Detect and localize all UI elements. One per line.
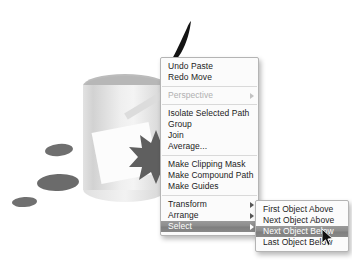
menu-item-label: Average... xyxy=(168,141,207,151)
object-context-menu[interactable]: Undo PasteRedo MovePerspectiveIsolate Se… xyxy=(160,57,259,236)
menu-item-group[interactable]: Group xyxy=(161,119,258,130)
menu-separator xyxy=(162,195,257,196)
screenshot-stage: Undo PasteRedo MovePerspectiveIsolate Se… xyxy=(0,0,352,262)
menu-item-label: First Object Above xyxy=(263,204,333,214)
menu-separator xyxy=(162,155,257,156)
menu-item-label: Group xyxy=(168,119,192,129)
splat-bottom[interactable] xyxy=(12,196,38,208)
menu-item-label: Perspective xyxy=(168,90,213,100)
splat-top[interactable] xyxy=(44,143,73,158)
menu-item-last-object-below[interactable]: Last Object Below xyxy=(256,237,348,248)
menu-item-label: Make Compound Path xyxy=(168,170,253,180)
menu-item-join[interactable]: Join xyxy=(161,130,258,141)
menu-item-label: Make Guides xyxy=(168,181,219,191)
menu-separator xyxy=(162,86,257,87)
menu-separator xyxy=(162,104,257,105)
chevron-right-icon xyxy=(250,224,254,230)
menu-item-label: Next Object Above xyxy=(263,215,334,225)
mouse-pointer xyxy=(322,229,334,246)
menu-item-average[interactable]: Average... xyxy=(161,141,258,152)
menu-item-first-object-above[interactable]: First Object Above xyxy=(256,204,348,215)
menu-item-label: Select xyxy=(168,221,192,231)
menu-item-perspective: Perspective xyxy=(161,90,258,101)
select-submenu[interactable]: First Object AboveNext Object AboveNext … xyxy=(255,200,349,252)
menu-item-label: Redo Move xyxy=(168,72,212,82)
menu-item-make-clipping-mask[interactable]: Make Clipping Mask xyxy=(161,159,258,170)
menu-item-next-object-above[interactable]: Next Object Above xyxy=(256,215,348,226)
menu-item-label: Make Clipping Mask xyxy=(168,159,245,169)
menu-item-make-guides[interactable]: Make Guides xyxy=(161,181,258,192)
menu-item-isolate-selected-path[interactable]: Isolate Selected Path xyxy=(161,108,258,119)
chevron-right-icon xyxy=(250,202,254,208)
menu-item-undo-paste[interactable]: Undo Paste xyxy=(161,61,258,72)
splat-middle[interactable] xyxy=(37,173,80,192)
menu-item-next-object-below[interactable]: Next Object Below xyxy=(256,226,348,237)
menu-item-label: Arrange xyxy=(168,210,199,220)
menu-item-select[interactable]: Select xyxy=(161,221,258,232)
menu-item-label: Isolate Selected Path xyxy=(168,108,249,118)
menu-item-label: Join xyxy=(168,130,184,140)
menu-item-transform[interactable]: Transform xyxy=(161,199,258,210)
menu-item-label: Transform xyxy=(168,199,207,209)
menu-item-redo-move[interactable]: Redo Move xyxy=(161,72,258,83)
chevron-right-icon xyxy=(250,213,254,219)
chevron-right-icon xyxy=(250,93,254,99)
menu-item-arrange[interactable]: Arrange xyxy=(161,210,258,221)
menu-item-make-compound-path[interactable]: Make Compound Path xyxy=(161,170,258,181)
menu-item-label: Undo Paste xyxy=(168,61,213,71)
